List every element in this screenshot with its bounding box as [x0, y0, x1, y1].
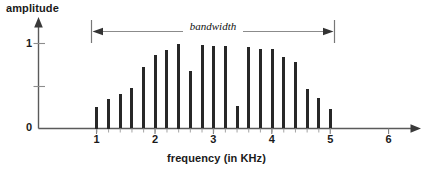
x-tick-label-6: 6	[381, 133, 397, 145]
spectral-line	[165, 50, 168, 128]
spectral-line	[201, 45, 204, 128]
spectral-line	[142, 67, 145, 128]
spectral-line	[212, 46, 215, 128]
x-tick-label-4: 4	[264, 133, 280, 145]
spectral-line	[95, 107, 98, 128]
x-tick-label-1: 1	[89, 133, 105, 145]
spectrum-figure: amplitude	[0, 0, 433, 178]
bandwidth-label: bandwidth	[183, 20, 243, 32]
x-tick-label-3: 3	[205, 133, 221, 145]
spectral-line	[317, 98, 320, 129]
spectral-line	[282, 57, 285, 128]
spectral-line	[130, 88, 133, 129]
x-tick-label-2: 2	[147, 133, 163, 145]
y-axis-ticks	[34, 44, 46, 87]
spectral-line	[294, 62, 297, 128]
y-tick-label-0: 0	[18, 121, 32, 133]
spectral-line	[329, 109, 332, 129]
spectral-line	[224, 46, 227, 128]
x-axis-major-ticks	[97, 129, 389, 135]
spectral-line	[107, 99, 110, 129]
spectral-line	[119, 94, 122, 129]
spectral-line	[271, 49, 274, 128]
x-tick-label-5: 5	[322, 133, 338, 145]
spectral-line	[259, 49, 262, 129]
spectral-line	[247, 47, 250, 129]
spectral-line	[236, 106, 239, 129]
y-tick-label-1: 1	[18, 37, 32, 49]
spectral-line	[177, 44, 180, 129]
spectral-line	[306, 89, 309, 129]
spectral-line	[189, 71, 192, 129]
y-axis	[34, 17, 43, 129]
x-axis-title: frequency (in KHz)	[0, 152, 433, 164]
spectral-line	[154, 55, 157, 129]
